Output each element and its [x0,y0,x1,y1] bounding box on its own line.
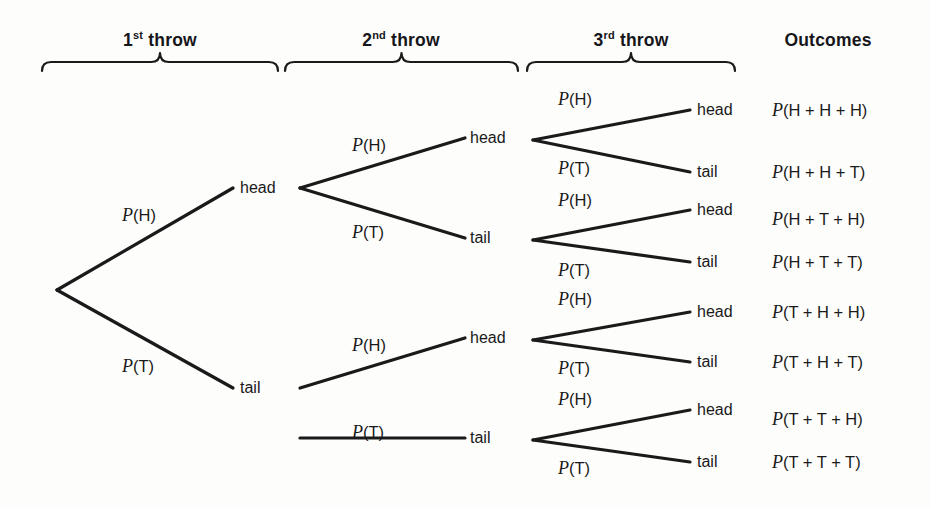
header-suffix: throw [615,30,669,50]
probability-symbol: P [772,452,783,472]
header-ordinal-suffix: nd [372,29,386,41]
probability-symbol: P [122,205,133,225]
probability-argument: (H) [569,290,592,308]
brace-throw-3 [527,53,735,71]
probability-argument: (H) [569,191,592,209]
outcome-expression: (T + H + T) [783,353,863,371]
branch-label-1-tail: P(T) [122,356,154,377]
node-l2-head-head: head [470,129,506,147]
header-throw-3: 3rd throw [593,30,668,51]
probability-argument: (T) [569,159,590,177]
probability-symbol: P [772,100,783,120]
node-l2-tail-tail: tail [470,429,490,447]
node-l3-thh: head [697,303,733,321]
branch-label-2-hh: P(H) [352,135,386,156]
probability-symbol: P [352,422,363,442]
outcome-expression: (T + T + H) [783,410,863,428]
header-suffix: throw [386,30,440,50]
probability-symbol: P [352,222,363,242]
probability-symbol: P [558,358,569,378]
outcome-hhh: P(H + H + H) [772,100,867,121]
probability-argument: (T) [569,261,590,279]
node-l3-hth: head [697,201,733,219]
header-suffix: throw [143,30,197,50]
brace-throw-1 [42,53,278,71]
header-text: 2 [362,30,372,50]
outcome-expression: (T + T + T) [783,453,861,471]
branch-label-3-tth: P(H) [558,389,592,410]
probability-symbol: P [558,458,569,478]
node-l3-hht: tail [697,163,717,181]
branch-label-2-ht: P(T) [352,222,384,243]
probability-symbol: P [558,289,569,309]
probability-argument: (T) [363,223,384,241]
branch-label-3-hht: P(T) [558,158,590,179]
header-throw-1: 1st throw [123,30,197,51]
probability-symbol: P [772,252,783,272]
header-ordinal-suffix: st [133,29,143,41]
header-ordinal-suffix: rd [603,29,614,41]
branch-to-l3-hth [533,210,690,240]
branch-to-l3-ttt [533,440,690,462]
node-l2-head-tail: tail [470,229,490,247]
probability-argument: (H) [133,206,156,224]
branch-to-l3-hhh [533,110,690,140]
probability-argument: (T) [363,423,384,441]
probability-symbol: P [772,209,783,229]
node-l2-tail-head: head [470,329,506,347]
outcome-thh: P(T + H + H) [772,302,865,323]
probability-argument: (H) [569,390,592,408]
probability-symbol: P [558,89,569,109]
branch-label-3-tht: P(T) [558,358,590,379]
node-l1-head: head [240,179,276,197]
probability-argument: (T) [569,459,590,477]
branch-to-l3-thh [533,312,690,340]
node-l3-htt: tail [697,253,717,271]
node-l1-tail: tail [240,379,260,397]
probability-argument: (T) [133,357,154,375]
probability-argument: (H) [363,336,386,354]
branch-to-l3-tht [533,340,690,362]
probability-symbol: P [558,158,569,178]
probability-argument: (H) [363,136,386,154]
outcome-hth: P(H + T + H) [772,209,865,230]
outcome-expression: (H + H + T) [783,163,865,181]
branch-to-l3-tth [533,410,690,440]
probability-symbol: P [352,335,363,355]
probability-tree-figure: 1st throw2nd throw3rd throwOutcomes head… [0,0,931,508]
node-l3-tth: head [697,401,733,419]
branch-to-l3-hht [533,140,690,172]
header-text: 3 [593,30,603,50]
outcome-htt: P(H + T + T) [772,252,863,273]
probability-argument: (H) [569,90,592,108]
outcome-hht: P(H + H + T) [772,162,865,183]
header-text: 1 [123,30,133,50]
header-text: Outcomes [784,30,871,50]
node-l3-tht: tail [697,353,717,371]
probability-symbol: P [558,190,569,210]
probability-argument: (T) [569,359,590,377]
probability-symbol: P [772,352,783,372]
branch-label-3-ttt: P(T) [558,458,590,479]
branch-label-2-th: P(H) [352,335,386,356]
node-l3-hhh: head [697,101,733,119]
node-l3-ttt: tail [697,453,717,471]
outcome-expression: (T + H + H) [783,303,865,321]
branch-to-l3-htt [533,240,690,262]
outcome-ttt: P(T + T + T) [772,452,861,473]
probability-symbol: P [772,302,783,322]
outcome-expression: (H + T + T) [783,253,863,271]
probability-symbol: P [122,356,133,376]
brace-throw-2 [285,53,518,71]
branch-label-3-hth: P(H) [558,190,592,211]
outcome-expression: (H + T + H) [783,210,865,228]
outcome-tht: P(T + H + T) [772,352,863,373]
outcome-tth: P(T + T + H) [772,409,863,430]
header-outcomes: Outcomes [784,30,871,51]
branch-label-2-tt: P(T) [352,422,384,443]
probability-symbol: P [352,135,363,155]
branch-label-1-head: P(H) [122,205,156,226]
branch-label-3-htt: P(T) [558,260,590,281]
outcome-expression: (H + H + H) [783,101,867,119]
branch-label-3-thh: P(H) [558,289,592,310]
